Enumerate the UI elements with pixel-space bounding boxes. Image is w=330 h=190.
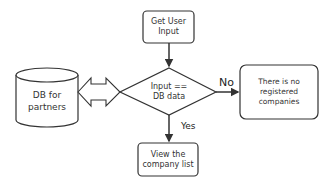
bidirectional-arrow — [78, 78, 120, 106]
yes-edge-label: Yes — [181, 121, 196, 131]
database-label: DB for partners — [16, 82, 78, 120]
no-result-label: There is no registered companies — [240, 65, 318, 119]
decision-label: Input == DB data — [140, 80, 198, 104]
no-edge-label: No — [219, 76, 234, 89]
view-list-label: View the company list — [138, 143, 198, 176]
get-input-label: Get User Input — [143, 11, 194, 43]
